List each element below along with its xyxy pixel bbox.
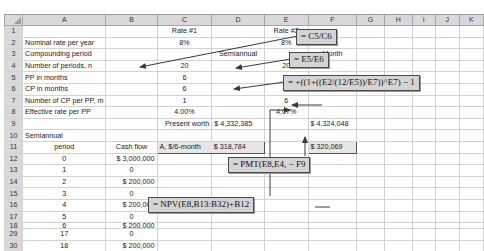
cell-b8[interactable]: [106, 107, 157, 119]
row-header-9[interactable]: 9: [5, 118, 23, 130]
callout-formula-npv[interactable]: = NPV(E8,B13:B32)+B12: [148, 197, 254, 213]
cell-g1[interactable]: [357, 26, 385, 38]
callout-formula-e7[interactable]: = E5/E6: [289, 52, 329, 68]
cell-f9[interactable]: $ 4,324,048: [308, 118, 357, 130]
cell-h4[interactable]: [384, 60, 412, 72]
row-header-8[interactable]: 8: [5, 107, 23, 119]
cell-h10[interactable]: [384, 130, 412, 142]
cell-e16[interactable]: [264, 199, 308, 211]
cell-k8[interactable]: [459, 107, 483, 119]
cell-c6[interactable]: 6: [157, 83, 212, 95]
cell-h14[interactable]: [384, 176, 412, 188]
cell-c4[interactable]: 20: [157, 60, 212, 72]
cell-d29[interactable]: [212, 229, 264, 241]
cell-j9[interactable]: [435, 118, 459, 130]
cell-h29[interactable]: [384, 229, 412, 241]
cell-h17[interactable]: [384, 211, 412, 223]
select-all-corner[interactable]: [5, 15, 23, 26]
cell-b10[interactable]: [106, 130, 157, 142]
cell-a29[interactable]: 17: [23, 229, 106, 241]
cell-k5[interactable]: [459, 72, 483, 84]
cell-d2[interactable]: [212, 37, 264, 49]
cell-g9[interactable]: [357, 118, 385, 130]
cell-i1[interactable]: [412, 26, 435, 38]
cell-i12[interactable]: [412, 153, 435, 165]
cell-c9[interactable]: Present worth: [157, 118, 212, 130]
cell-j30[interactable]: [435, 240, 459, 251]
cell-g17[interactable]: [357, 211, 385, 223]
cell-j16[interactable]: [435, 199, 459, 211]
cell-j12[interactable]: [435, 153, 459, 165]
cell-k17[interactable]: [459, 211, 483, 223]
cell-a9[interactable]: [23, 118, 106, 130]
cell-d9[interactable]: $ 4,332,385: [212, 118, 264, 130]
column-header-g[interactable]: G: [357, 15, 385, 26]
cell-f15[interactable]: [308, 188, 357, 200]
cell-g4[interactable]: [357, 60, 385, 72]
cell-i10[interactable]: [412, 130, 435, 142]
cell-k3[interactable]: [459, 49, 483, 61]
cell-j1[interactable]: [435, 26, 459, 38]
cell-a4[interactable]: Number of periods, n: [23, 60, 106, 72]
column-header-e[interactable]: E: [264, 15, 308, 26]
cell-b11[interactable]: Cash flow: [106, 141, 157, 153]
callout-formula-pmt[interactable]: = PMT(E8,E4, − F9: [228, 157, 310, 173]
row-header-5[interactable]: 5: [5, 72, 23, 84]
cell-a30[interactable]: 18: [23, 240, 106, 251]
cell-g8[interactable]: [357, 107, 385, 119]
cell-i15[interactable]: [412, 188, 435, 200]
cell-e9[interactable]: [264, 118, 308, 130]
cell-c11[interactable]: A, $/6-month: [157, 141, 212, 153]
cell-h3[interactable]: [384, 49, 412, 61]
cell-b13[interactable]: 0: [106, 165, 157, 177]
cell-j3[interactable]: [435, 49, 459, 61]
cell-j11[interactable]: [435, 141, 459, 153]
cell-h13[interactable]: [384, 165, 412, 177]
cell-k13[interactable]: [459, 165, 483, 177]
cell-i11[interactable]: [412, 141, 435, 153]
cell-b29[interactable]: 0: [106, 229, 157, 241]
cell-k2[interactable]: [459, 37, 483, 49]
cell-k11[interactable]: [459, 141, 483, 153]
column-header-a[interactable]: A: [23, 15, 106, 26]
cell-f10[interactable]: [308, 130, 357, 142]
row-header-15[interactable]: 15: [5, 188, 23, 200]
row-header-7[interactable]: 7: [5, 95, 23, 107]
cell-d30[interactable]: [212, 240, 264, 251]
cell-a11[interactable]: period: [23, 141, 106, 153]
cell-k7[interactable]: [459, 95, 483, 107]
column-header-i[interactable]: I: [412, 15, 435, 26]
cell-f12[interactable]: [308, 153, 357, 165]
cell-c5[interactable]: 6: [157, 72, 212, 84]
cell-a3[interactable]: Compounding period: [23, 49, 106, 61]
cell-i13[interactable]: [412, 165, 435, 177]
cell-a13[interactable]: 1: [23, 165, 106, 177]
row-header-16[interactable]: 16: [5, 199, 23, 211]
cell-b2[interactable]: [106, 37, 157, 49]
cell-i3[interactable]: [412, 49, 435, 61]
cell-i4[interactable]: [412, 60, 435, 72]
cell-k14[interactable]: [459, 176, 483, 188]
cell-b30[interactable]: $ 200,000: [106, 240, 157, 251]
cell-j6[interactable]: [435, 83, 459, 95]
cell-j4[interactable]: [435, 60, 459, 72]
cell-g12[interactable]: [357, 153, 385, 165]
cell-b7[interactable]: [106, 95, 157, 107]
cell-k12[interactable]: [459, 153, 483, 165]
cell-k9[interactable]: [459, 118, 483, 130]
cell-h2[interactable]: [384, 37, 412, 49]
cell-k16[interactable]: [459, 199, 483, 211]
cell-b1[interactable]: [106, 26, 157, 38]
cell-d14[interactable]: [212, 176, 264, 188]
cell-f16[interactable]: [308, 199, 357, 211]
cell-k4[interactable]: [459, 60, 483, 72]
row-header-1[interactable]: 1: [5, 26, 23, 38]
cell-i30[interactable]: [412, 240, 435, 251]
cell-a7[interactable]: Number of CP per PP, m: [23, 95, 106, 107]
cell-f13[interactable]: [308, 165, 357, 177]
column-header-j[interactable]: J: [435, 15, 459, 26]
cell-i16[interactable]: [412, 199, 435, 211]
cell-e8[interactable]: 4.07%: [264, 107, 308, 119]
row-header-14[interactable]: 14: [5, 176, 23, 188]
cell-h15[interactable]: [384, 188, 412, 200]
